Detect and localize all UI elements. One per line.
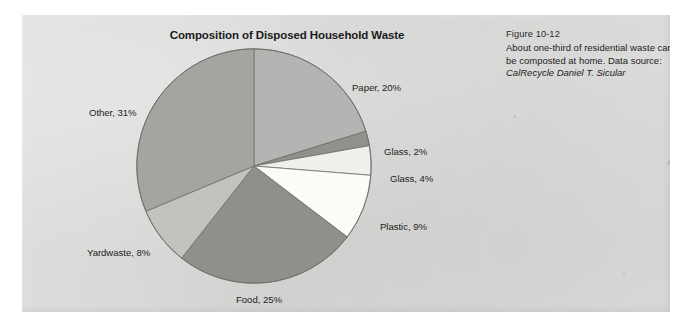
- slice-label-food: Food, 25%: [236, 294, 282, 305]
- scan-speck: [514, 115, 516, 118]
- scan-speck: [623, 273, 625, 275]
- pie-chart: [136, 48, 372, 284]
- slice-label-yardwaste: Yardwaste, 8%: [87, 247, 150, 258]
- figure-panel: Composition of Disposed Household Waste …: [22, 15, 670, 312]
- slice-label-other: Other, 31%: [89, 107, 137, 118]
- caption-source: CalRecycle Daniel T. Sicular: [506, 67, 626, 78]
- figure-caption-text: About one-third of residential waste can…: [506, 42, 670, 80]
- slice-label-glass-4: Glass, 4%: [390, 173, 433, 184]
- slice-label-plastic: Plastic, 9%: [380, 221, 427, 232]
- pie-slices: [137, 49, 371, 283]
- chart-title: Composition of Disposed Household Waste: [122, 29, 452, 41]
- slice-label-glass-2: Glass, 2%: [384, 146, 427, 157]
- caption-sentence: About one-third of residential waste can…: [506, 42, 670, 66]
- figure-number: Figure 10-12: [506, 28, 670, 41]
- scan-speck: [668, 160, 670, 165]
- pie-chart-svg: [136, 48, 372, 284]
- slice-label-paper: Paper, 20%: [352, 82, 401, 93]
- figure-caption: Figure 10-12 About one-third of resident…: [506, 28, 670, 80]
